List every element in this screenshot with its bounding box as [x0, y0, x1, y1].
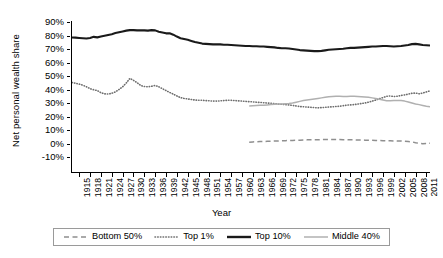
- series-line: [249, 96, 430, 107]
- x-axis-tick-mark: [112, 173, 113, 177]
- x-axis-tick-label: 1921: [105, 178, 114, 197]
- x-axis-tick-mark: [307, 173, 308, 177]
- y-axis-tick-mark: [67, 36, 70, 37]
- x-axis-tick-mark: [177, 173, 178, 177]
- y-axis-tick-mark: [67, 49, 70, 50]
- x-axis-tick-mark: [242, 173, 243, 177]
- x-axis-tick-label: 1918: [94, 178, 103, 197]
- legend-swatch: [154, 233, 180, 241]
- x-axis-tick-label: 2005: [409, 178, 418, 197]
- legend-item[interactable]: Top 10%: [226, 232, 291, 241]
- y-axis-tick-label: 10%: [45, 125, 64, 135]
- x-axis-tick-label: 1987: [344, 178, 353, 197]
- x-axis-tick-label: 2011: [430, 178, 439, 196]
- y-axis-tick-label: -10%: [42, 152, 64, 162]
- legend-label: Middle 40%: [332, 232, 380, 241]
- x-axis-tick-mark: [199, 173, 200, 177]
- legend-label: Top 10%: [255, 232, 291, 241]
- x-axis-tick-mark: [209, 173, 210, 177]
- x-axis-tick-mark: [340, 173, 341, 177]
- x-axis-tick-label: 1978: [311, 178, 320, 197]
- y-axis-tick-label: 70%: [45, 44, 64, 54]
- y-axis-tick-label: 80%: [45, 31, 64, 41]
- x-axis-tick-label: 1924: [116, 178, 125, 197]
- x-axis-tick-mark: [264, 173, 265, 177]
- y-axis-tick-label: 0%: [50, 139, 64, 149]
- y-axis-tick-mark: [67, 90, 70, 91]
- x-axis-tick-label: 1948: [203, 178, 212, 197]
- x-axis-tick-label: 1963: [257, 178, 266, 197]
- y-axis-title-container: Net personal wealth share: [0, 0, 22, 190]
- y-axis-tick-labels: 90%80%70%60%50%40%30%20%10%0%-10%: [20, 16, 70, 181]
- x-axis-tick-mark: [90, 173, 91, 177]
- x-axis-tick-label: 1927: [127, 178, 136, 197]
- x-axis-tick-mark: [188, 173, 189, 177]
- y-axis-tick-mark: [67, 22, 70, 23]
- y-axis-tick-mark: [67, 63, 70, 64]
- y-axis-tick-label: 40%: [45, 85, 64, 95]
- x-axis-tick-mark: [285, 173, 286, 177]
- x-axis-tick-mark: [220, 173, 221, 177]
- series-line: [72, 78, 430, 107]
- x-axis-tick-label: 2002: [398, 178, 407, 197]
- x-axis-tick-label: 1960: [246, 178, 255, 197]
- y-axis-tick-mark: [67, 157, 70, 158]
- x-axis-tick-label: 1930: [137, 178, 146, 197]
- x-axis-tick-label: 1966: [268, 178, 277, 197]
- x-axis-tick-labels: 1915191819211924192719301933193619391942…: [71, 178, 431, 208]
- y-axis-tick-label: 90%: [45, 17, 64, 27]
- x-axis-tick-label: 1972: [289, 178, 298, 197]
- x-axis-title: Year: [0, 207, 443, 218]
- legend-item[interactable]: Bottom 50%: [63, 232, 142, 241]
- x-axis-tick-label: 1945: [192, 178, 201, 197]
- plot-area: [72, 22, 430, 157]
- y-axis-tick-label: 60%: [45, 58, 64, 68]
- legend-label: Top 1%: [183, 232, 214, 241]
- x-axis-tick-mark: [383, 173, 384, 177]
- series-line: [72, 30, 430, 51]
- x-axis-tick-mark: [79, 173, 80, 177]
- y-axis-title: Net personal wealth share: [10, 16, 21, 166]
- y-axis-tick-mark: [67, 144, 70, 145]
- x-axis-tick-label: 2008: [420, 178, 429, 197]
- chart-legend: Bottom 50%Top 1%Top 10%Middle 40%: [53, 228, 390, 246]
- legend-label: Bottom 50%: [92, 232, 142, 241]
- x-axis-tick-label: 1936: [159, 178, 168, 197]
- x-axis-tick-label: 1993: [365, 178, 374, 197]
- x-axis-tick-mark: [416, 173, 417, 177]
- x-axis-tick-label: 1933: [148, 178, 157, 197]
- x-axis-tick-label: 1957: [235, 178, 244, 197]
- x-axis-tick-label: 1915: [83, 178, 92, 197]
- x-axis-tick-label: 1942: [181, 178, 190, 197]
- x-axis-tick-label: 1984: [333, 178, 342, 197]
- y-axis-tick-mark: [67, 130, 70, 131]
- x-axis-tick-mark: [296, 173, 297, 177]
- wealth-share-chart: Net personal wealth share 90%80%70%60%50…: [0, 0, 443, 258]
- x-axis-tick-label: 1996: [376, 178, 385, 197]
- x-axis-tick-label: 1999: [387, 178, 396, 197]
- x-axis-tick-mark: [405, 173, 406, 177]
- x-axis-tick-label: 1954: [224, 178, 233, 197]
- x-axis-tick-label: 1969: [279, 178, 288, 197]
- x-axis-tick-mark: [394, 173, 395, 177]
- y-axis-tick-mark: [67, 117, 70, 118]
- x-axis-tick-label: 1975: [300, 178, 309, 197]
- series-lines: [72, 22, 430, 157]
- x-axis-tick-label: 1990: [354, 178, 363, 197]
- x-axis-tick-mark: [231, 173, 232, 177]
- legend-swatch: [63, 233, 89, 241]
- x-axis-tick-mark: [361, 173, 362, 177]
- y-axis-tick-mark: [67, 76, 70, 77]
- legend-item[interactable]: Top 1%: [154, 232, 214, 241]
- series-line: [249, 139, 430, 143]
- x-axis-tick-mark: [133, 173, 134, 177]
- legend-swatch: [303, 233, 329, 241]
- x-axis-tick-mark: [275, 173, 276, 177]
- y-axis-tick-label: 50%: [45, 71, 64, 81]
- x-axis-tick-mark: [318, 173, 319, 177]
- x-axis-tick-label: 1951: [213, 178, 222, 197]
- legend-item[interactable]: Middle 40%: [303, 232, 380, 241]
- x-axis-tick-mark: [166, 173, 167, 177]
- x-axis-tick-label: 1939: [170, 178, 179, 197]
- x-axis-tick-mark: [101, 173, 102, 177]
